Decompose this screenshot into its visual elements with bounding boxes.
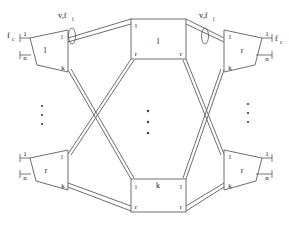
right-outer-flow-label: f — [275, 33, 278, 43]
edge-topright-to-topbox — [186, 19, 224, 42]
bottom-right-trapezoid-port-bottom: k — [228, 182, 232, 190]
node-bottom-center-box[interactable]: k l l r r — [131, 179, 186, 212]
edge-bottomright-to-bottombox — [186, 183, 224, 211]
bottom-right-trapezoid-outer-last: n — [265, 174, 269, 182]
node-bottom-right-trapezoid[interactable]: r l k 1 n — [224, 150, 272, 190]
bottom-left-trapezoid-port-bottom: k — [61, 182, 65, 190]
edge-left-cross-up — [68, 59, 134, 155]
right-outer-flow-subscript: c — [280, 39, 283, 45]
bottom-left-trapezoid-port-top: l — [61, 153, 63, 161]
bottom-right-trapezoid-outer-first: 1 — [265, 150, 269, 158]
top-right-trapezoid-outer-first: 1 — [265, 30, 269, 38]
top-left-trapezoid-outer-first: 1 — [23, 30, 27, 38]
network-diagram-svg: l l k 1 n f c l l r r r l k — [0, 0, 289, 229]
vertical-dots-left — [41, 105, 43, 125]
top-left-trapezoid-outer-last: n — [23, 54, 27, 62]
node-top-right-trapezoid[interactable]: r l k 1 n f c — [224, 30, 283, 72]
edge-right-cross-down — [183, 69, 224, 179]
top-left-trapezoid-port-bottom: k — [61, 64, 65, 72]
link-top-left-subscript: i — [72, 16, 74, 22]
node-bottom-left-trapezoid[interactable]: r l k 1 n — [20, 150, 68, 190]
bottom-right-trapezoid-center-label: r — [241, 166, 244, 175]
bottom-right-trapezoid-port-top: l — [229, 153, 231, 161]
bottom-center-box-center-label: k — [156, 181, 160, 190]
node-top-left-trapezoid[interactable]: l l k 1 n f c — [7, 30, 68, 72]
top-center-box-corner-top-left: l — [135, 22, 137, 30]
left-outer-flow-label: f — [7, 30, 10, 40]
bottom-center-box-corner-top-right: l — [180, 183, 182, 191]
link-top-right-subscript: i — [213, 16, 215, 22]
edge-topleft-to-topbox — [68, 19, 131, 42]
diagram-canvas: l l k 1 n f c l l r r r l k — [0, 0, 289, 229]
vertical-dots-right — [247, 103, 249, 123]
bottom-left-trapezoid-outer-first: 1 — [23, 150, 27, 158]
left-outer-flow-subscript: c — [12, 36, 15, 42]
edge-left-cross-down — [68, 69, 134, 179]
top-right-trapezoid-outer-last: n — [265, 55, 269, 63]
top-right-trapezoid-port-top: l — [229, 33, 231, 41]
bottom-center-box-corner-top-left: l — [135, 183, 137, 191]
bottom-left-trapezoid-center-label: r — [45, 166, 48, 175]
edge-bottomleft-to-bottombox — [68, 183, 131, 211]
link-top-left-label: v,f — [58, 10, 67, 20]
top-right-trapezoid-center-label: r — [241, 46, 244, 55]
top-right-trapezoid-port-bottom: k — [228, 64, 232, 72]
top-left-trapezoid-port-top: l — [61, 33, 63, 41]
edge-right-cross-up — [183, 59, 224, 155]
bottom-left-trapezoid-outer-last: n — [23, 174, 27, 182]
vertical-dots-center — [147, 110, 149, 134]
node-top-center-box[interactable]: l l r r — [131, 19, 186, 59]
link-top-right-label: v,f — [199, 10, 208, 20]
